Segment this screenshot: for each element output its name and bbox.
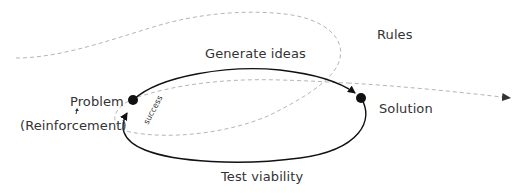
rules-dashed-curve [16, 12, 348, 135]
solution-node [356, 93, 366, 103]
problem-label: Problem [70, 94, 124, 109]
problem-node [128, 95, 138, 105]
reinforcement-label: (Reinforcement) [20, 118, 127, 133]
rules-dashed-arrow [348, 83, 510, 98]
success-label: success [142, 94, 165, 126]
rules-label: Rules [377, 27, 413, 42]
generate-ideas-label: Generate ideas [205, 46, 306, 61]
solution-label: Solution [379, 101, 433, 116]
test-viability-label: Test viability [221, 169, 303, 184]
